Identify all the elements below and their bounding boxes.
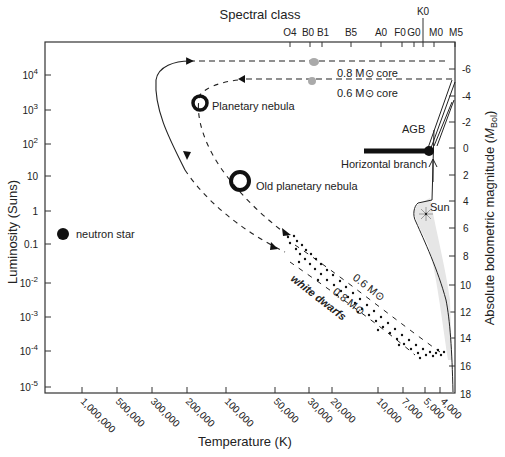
horizontal-branch-point: [424, 146, 434, 156]
svg-text:16: 16: [460, 361, 472, 372]
svg-text:G0: G0: [407, 27, 421, 38]
right-axis-labels: -6 -4 -2 0 2 4 6 8 10 12 14 16 18: [460, 64, 472, 400]
svg-text:F0: F0: [394, 27, 406, 38]
core-06-label: 0.6 M⊙ core: [337, 87, 398, 99]
left-axis-ticks: [45, 75, 51, 387]
svg-text:B1: B1: [317, 27, 330, 38]
core-08-label: 0.8 M⊙ core: [337, 67, 398, 79]
track-06-arrow-b: [282, 228, 291, 236]
svg-text:4: 4: [463, 196, 469, 207]
old-planetary-nebula-icon: [231, 172, 249, 190]
svg-text:10,000: 10,000: [375, 396, 405, 426]
core-06-origin-marker: [308, 77, 316, 85]
left-axis-labels: 104 103 102 10 1 0.1 10-2 10-3 10-4 10-5: [20, 67, 39, 393]
planetary-nebula-label: Planetary nebula: [212, 100, 295, 112]
svg-text:103: 103: [22, 102, 38, 116]
svg-text:500,000: 500,000: [114, 396, 148, 430]
sun-icon: [419, 207, 433, 221]
svg-text:300,000: 300,000: [149, 396, 183, 430]
svg-text:M5: M5: [449, 27, 463, 38]
svg-text:A0: A0: [375, 27, 388, 38]
svg-text:12: 12: [460, 307, 472, 318]
svg-text:-2: -2: [462, 117, 471, 128]
svg-text:102: 102: [22, 136, 38, 150]
svg-text:K0: K0: [417, 6, 430, 17]
svg-text:1,000,000: 1,000,000: [79, 396, 119, 436]
svg-text:-4: -4: [462, 91, 471, 102]
svg-text:10: 10: [460, 280, 472, 291]
svg-text:B0: B0: [302, 27, 315, 38]
core-08-origin-marker: [309, 58, 319, 66]
svg-text:100,000: 100,000: [223, 396, 257, 430]
svg-text:10-5: 10-5: [20, 379, 39, 393]
svg-text:200,000: 200,000: [184, 396, 218, 430]
spectral-class-title: Spectral class: [220, 7, 301, 22]
track-08-arrow-b: [270, 242, 278, 250]
neutron-star-marker: [57, 228, 69, 240]
agb-label: AGB: [402, 123, 425, 135]
bottom-axis-labels: 1,000,000 500,000 300,000 200,000 100,00…: [79, 396, 465, 436]
svg-text:0: 0: [463, 143, 469, 154]
horizontal-branch-label: Horizontal branch: [341, 158, 427, 170]
top-axis-labels: O4 B0 B1 B5 A0 F0 G0 K0 M0 M5: [283, 6, 463, 38]
svg-text:8: 8: [463, 251, 469, 262]
agb-track: [428, 80, 455, 148]
svg-text:10-2: 10-2: [20, 275, 39, 289]
svg-text:2: 2: [463, 170, 469, 181]
svg-text:O4: O4: [283, 27, 297, 38]
svg-text:20,000: 20,000: [329, 396, 359, 426]
svg-text:10: 10: [27, 171, 39, 182]
planetary-nebula-icon: [193, 96, 207, 110]
svg-text:10-4: 10-4: [20, 343, 39, 357]
y-axis-title-right: Absolute bolometric magnitude (MBol): [482, 111, 499, 326]
svg-text:18: 18: [460, 389, 472, 400]
bottom-axis-ticks: [82, 387, 440, 393]
svg-text:10-3: 10-3: [20, 309, 39, 323]
neutron-star-label: neutron star: [76, 228, 135, 240]
track-06-arrow: [238, 75, 245, 83]
svg-text:1: 1: [32, 206, 38, 217]
sun-label: Sun: [430, 201, 450, 213]
main-sequence-region: [414, 198, 452, 360]
svg-text:0.1: 0.1: [24, 239, 38, 250]
svg-text:14: 14: [460, 333, 472, 344]
svg-text:50,000: 50,000: [272, 396, 302, 426]
y-axis-title-left: Luminosity (Suns): [5, 180, 20, 284]
svg-text:6: 6: [463, 223, 469, 234]
x-axis-title: Temperature (K): [198, 434, 292, 449]
svg-text:M0: M0: [429, 27, 443, 38]
svg-text:-6: -6: [462, 64, 471, 75]
svg-text:B5: B5: [345, 27, 358, 38]
svg-text:104: 104: [22, 67, 38, 81]
track-08-arrow-a: [183, 151, 191, 160]
old-planetary-nebula-label: Old planetary nebula: [256, 180, 358, 192]
hr-diagram: Spectral class O4 B0 B1 B5 A0 F0 G0 K0 M…: [0, 0, 505, 457]
